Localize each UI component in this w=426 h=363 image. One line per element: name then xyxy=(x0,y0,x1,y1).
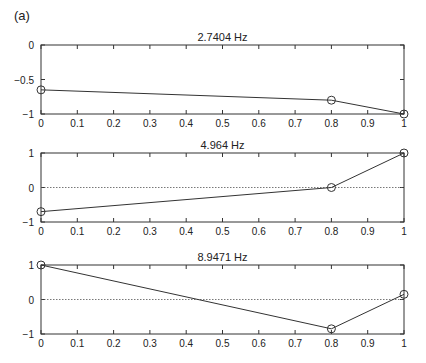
subplot-1: 2.7404 Hz00.10.20.30.40.50.60.70.80.910−… xyxy=(14,31,408,129)
x-tick-label: 0.2 xyxy=(107,226,121,237)
x-tick-label: 0.4 xyxy=(179,338,193,349)
x-tick-label: 0.4 xyxy=(179,118,193,129)
y-tick-label: 1 xyxy=(28,260,34,271)
x-tick-label: 0.5 xyxy=(216,118,230,129)
y-tick-label: −1 xyxy=(23,109,35,120)
subplot-title: 2.7404 Hz xyxy=(197,31,247,43)
x-tick-label: 0.1 xyxy=(70,226,84,237)
subplot-title: 8.9471 Hz xyxy=(197,251,247,263)
y-tick-label: −1 xyxy=(23,217,35,228)
series-line xyxy=(41,265,404,329)
figure: (a) 2.7404 Hz00.10.20.30.40.50.60.70.80.… xyxy=(0,0,426,363)
y-tick-label: 0 xyxy=(28,295,34,306)
x-tick-label: 0.7 xyxy=(288,338,302,349)
subplot-title: 4.964 Hz xyxy=(200,139,244,151)
y-tick-label: 0 xyxy=(28,183,34,194)
x-tick-label: 0 xyxy=(38,226,44,237)
x-tick-label: 1 xyxy=(401,118,407,129)
y-tick-label: −0.5 xyxy=(14,75,34,86)
x-tick-label: 0.9 xyxy=(361,338,375,349)
x-tick-label: 0.1 xyxy=(70,338,84,349)
x-tick-label: 0.8 xyxy=(324,226,338,237)
x-tick-label: 0.3 xyxy=(143,118,157,129)
series-line xyxy=(41,153,404,212)
x-tick-label: 0.7 xyxy=(288,226,302,237)
x-tick-label: 0.3 xyxy=(143,226,157,237)
y-tick-label: 0 xyxy=(28,40,34,51)
y-tick-label: 1 xyxy=(28,148,34,159)
subplot-2: 4.964 Hz00.10.20.30.40.50.60.70.80.9110−… xyxy=(23,139,408,237)
x-tick-label: 0 xyxy=(38,118,44,129)
subplots: 2.7404 Hz00.10.20.30.40.50.60.70.80.910−… xyxy=(14,31,408,349)
x-tick-label: 1 xyxy=(401,338,407,349)
x-tick-label: 0.6 xyxy=(252,118,266,129)
x-tick-label: 0.7 xyxy=(288,118,302,129)
subplot-3: 8.9471 Hz00.10.20.30.40.50.60.70.80.9110… xyxy=(23,251,408,349)
y-tick-label: −1 xyxy=(23,329,35,340)
x-tick-label: 0.6 xyxy=(252,338,266,349)
x-tick-label: 0.5 xyxy=(216,338,230,349)
x-tick-label: 0 xyxy=(38,338,44,349)
x-tick-label: 0.9 xyxy=(361,226,375,237)
x-tick-label: 0.2 xyxy=(107,118,121,129)
x-tick-label: 0.8 xyxy=(324,118,338,129)
x-tick-label: 0.1 xyxy=(70,118,84,129)
x-tick-label: 0.5 xyxy=(216,226,230,237)
panel-label: (a) xyxy=(14,8,30,23)
x-tick-label: 0.4 xyxy=(179,226,193,237)
x-tick-label: 0.8 xyxy=(324,338,338,349)
x-tick-label: 0.2 xyxy=(107,338,121,349)
x-tick-label: 0.3 xyxy=(143,338,157,349)
x-tick-label: 1 xyxy=(401,226,407,237)
x-tick-label: 0.6 xyxy=(252,226,266,237)
x-tick-label: 0.9 xyxy=(361,118,375,129)
